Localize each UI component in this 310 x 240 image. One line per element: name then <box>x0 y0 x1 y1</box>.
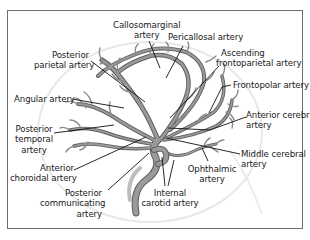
label-line: artery <box>12 145 56 155</box>
label-ophthalmic-artery: Ophthalmic artery <box>186 164 238 185</box>
label-line: artery <box>236 120 310 130</box>
label-ascending-frontoparietal-artery: Ascending frontoparietal artery <box>216 48 301 69</box>
leader-middle-cerebral <box>166 138 240 154</box>
label-line: Pericallosal artery <box>168 32 243 42</box>
leader-ascending-frontoparietal <box>170 66 219 118</box>
label-line: Ascending <box>216 48 301 58</box>
label-line: Posterior <box>12 124 56 134</box>
label-anterior-choroidal-artery: Anterior choroidal artery <box>10 163 74 184</box>
label-angular-artery: Angular artery <box>14 94 75 104</box>
label-internal-carotid-artery: Internal carotid artery <box>140 188 200 209</box>
label-posterior-parietal-artery: Posterior parietal artery <box>34 50 89 71</box>
label-line: Posterior <box>34 50 89 60</box>
label-line: Anterior <box>10 163 74 173</box>
label-posterior-temporal-artery: Posterior temporal artery <box>12 124 56 155</box>
label-line: temporal <box>12 134 56 144</box>
label-line: carotid artery <box>140 198 200 208</box>
label-pericallosal-artery: Pericallosal artery <box>168 32 243 42</box>
label-line: Anterior cerebral <box>236 110 310 120</box>
label-line: parietal artery <box>34 60 89 70</box>
label-line: frontoparietal artery <box>216 58 301 68</box>
leader-ophthalmic <box>202 148 208 161</box>
label-line: artery <box>186 174 238 184</box>
label-line: Posterior <box>40 188 102 198</box>
label-line: Ophthalmic <box>186 164 238 174</box>
label-line: Angular artery <box>14 94 75 104</box>
leader-frontopolar <box>209 85 231 113</box>
label-line: choroidal artery <box>10 173 74 183</box>
label-line: Callosomarginal <box>113 20 181 30</box>
label-line: Middle cerebral <box>241 149 306 159</box>
label-anterior-cerebral-artery: Anterior cerebral artery <box>236 110 310 131</box>
label-line: communicating <box>40 198 102 208</box>
label-line: artery <box>40 209 102 219</box>
label-line: artery <box>241 159 306 169</box>
label-line: Internal <box>140 188 200 198</box>
label-frontopolar-artery: Frontopolar artery <box>233 80 309 90</box>
label-line: Frontopolar artery <box>233 80 309 90</box>
label-posterior-communicating-artery: Posterior communicating artery <box>40 188 102 219</box>
label-middle-cerebral-artery: Middle cerebral artery <box>241 149 306 170</box>
